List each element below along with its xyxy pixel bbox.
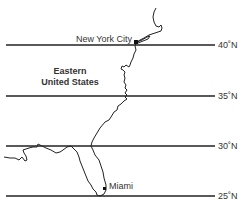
region-label-line1: Eastern — [40, 66, 100, 77]
latitude-label-40: 40˚N — [218, 40, 238, 50]
city-marker-new-york — [134, 40, 138, 44]
region-label-line2: United States — [40, 77, 100, 88]
latitude-label-25: 25˚N — [218, 191, 238, 201]
city-marker-miami — [103, 187, 106, 190]
latitude-label-30: 30˚N — [218, 141, 238, 151]
region-label: Eastern United States — [40, 66, 100, 88]
city-label-miami: Miami — [109, 181, 133, 191]
map-canvas — [0, 0, 241, 206]
latitude-label-35: 35˚N — [218, 91, 238, 101]
city-label-new-york: New York City — [76, 34, 132, 44]
